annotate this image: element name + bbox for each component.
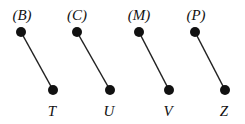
diagram-canvas: (B)T(C)U(M)V(P)Z — [0, 0, 245, 124]
top-node — [134, 27, 144, 37]
top-label: (M) — [128, 7, 151, 24]
edge — [139, 32, 169, 90]
node-pair: (C)U — [67, 7, 116, 119]
bottom-node — [48, 85, 58, 95]
bottom-label: Z — [220, 103, 229, 119]
bottom-label: V — [163, 103, 174, 119]
bottom-node — [105, 85, 115, 95]
top-label: (C) — [67, 7, 87, 24]
edge — [77, 32, 110, 90]
top-node — [16, 27, 26, 37]
top-label: (P) — [186, 7, 205, 24]
bottom-label: T — [48, 103, 58, 119]
edge — [21, 32, 53, 90]
bottom-node — [164, 85, 174, 95]
bottom-node — [220, 85, 230, 95]
node-pair: (P)Z — [186, 7, 230, 119]
top-node — [190, 27, 200, 37]
diagram-svg: (B)T(C)U(M)V(P)Z — [0, 0, 245, 124]
node-pair: (B)T — [12, 7, 58, 119]
edge — [195, 32, 225, 90]
top-node — [72, 27, 82, 37]
top-label: (B) — [12, 7, 31, 24]
bottom-label: U — [104, 103, 116, 119]
node-pair: (M)V — [128, 7, 175, 119]
